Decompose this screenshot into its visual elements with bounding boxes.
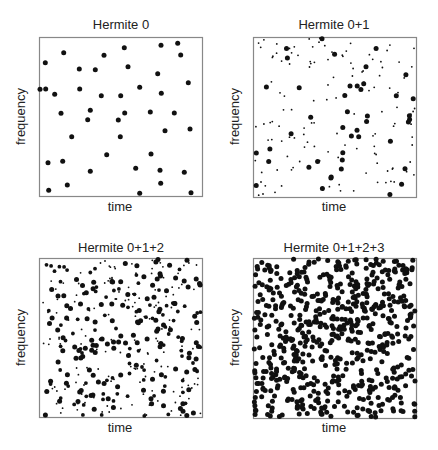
data-point [300, 331, 305, 336]
data-point [252, 370, 257, 375]
data-point [293, 46, 295, 48]
data-point [390, 335, 395, 340]
data-point [390, 367, 395, 372]
data-point [288, 303, 293, 308]
data-point [131, 404, 133, 406]
data-point [191, 387, 193, 389]
data-point [188, 262, 190, 264]
data-point [158, 168, 163, 173]
data-point [328, 355, 333, 360]
data-point [299, 299, 304, 304]
data-point [394, 123, 396, 125]
data-point [339, 166, 344, 171]
data-point [252, 316, 257, 321]
data-point [253, 272, 258, 277]
data-point [374, 153, 376, 155]
data-point [343, 263, 348, 268]
data-point [126, 353, 131, 358]
data-point [398, 295, 403, 300]
data-point [268, 362, 273, 367]
data-point [186, 80, 191, 85]
data-point [281, 360, 286, 365]
data-point [375, 371, 380, 376]
data-point [381, 349, 386, 354]
data-point [340, 190, 342, 192]
data-point [185, 258, 190, 263]
data-point [291, 169, 293, 171]
data-point [176, 335, 180, 339]
data-point [111, 340, 116, 345]
data-point [71, 332, 75, 336]
data-point [173, 276, 178, 281]
data-point [138, 297, 140, 299]
data-point [328, 280, 333, 285]
data-point [194, 277, 199, 282]
data-point [96, 380, 101, 385]
data-point [137, 308, 142, 313]
data-point [389, 321, 394, 326]
data-point [126, 305, 130, 309]
data-point [379, 408, 384, 413]
data-point [279, 92, 281, 94]
data-point [377, 344, 382, 349]
data-point [109, 302, 114, 307]
data-point [161, 313, 165, 317]
data-point [283, 339, 288, 344]
data-point [292, 167, 294, 169]
data-point [153, 318, 158, 323]
data-point [99, 302, 104, 307]
data-point [83, 346, 88, 351]
data-point [289, 136, 291, 138]
data-point [93, 328, 97, 332]
data-point [368, 90, 370, 92]
data-point [350, 42, 352, 44]
data-point [167, 263, 172, 268]
data-point [327, 151, 329, 153]
data-point [60, 348, 65, 353]
data-point [46, 188, 51, 193]
data-point [163, 384, 167, 388]
data-point [298, 340, 303, 345]
data-point [114, 266, 116, 268]
data-point [315, 159, 320, 164]
data-point [395, 376, 400, 381]
data-point [82, 403, 86, 407]
data-point [180, 414, 182, 416]
data-point [284, 334, 289, 339]
data-point [354, 299, 359, 304]
data-point [78, 283, 80, 285]
data-point [283, 329, 288, 334]
data-point [172, 301, 177, 306]
data-point [336, 261, 341, 266]
data-point [104, 260, 106, 262]
data-point [145, 337, 150, 342]
data-point [325, 391, 330, 396]
data-point [192, 348, 194, 350]
data-point [384, 376, 389, 381]
data-point [186, 285, 191, 290]
data-point [307, 141, 309, 143]
data-point [101, 392, 105, 396]
data-point [81, 329, 83, 331]
data-point [110, 318, 115, 323]
data-point [366, 341, 371, 346]
data-point [104, 295, 108, 299]
data-point [361, 81, 366, 86]
data-point [355, 84, 360, 89]
data-point [274, 264, 279, 269]
data-point [105, 341, 110, 346]
data-point [308, 38, 310, 40]
data-point [128, 286, 130, 288]
data-point [91, 280, 96, 285]
data-point [344, 361, 349, 366]
data-point [257, 345, 262, 350]
data-point [50, 280, 52, 282]
data-point [59, 344, 63, 348]
data-point [148, 110, 153, 115]
data-point [387, 192, 392, 197]
data-point [258, 42, 260, 44]
data-point [131, 263, 133, 265]
data-point [326, 99, 328, 101]
data-point [169, 319, 171, 321]
data-point [165, 304, 169, 308]
